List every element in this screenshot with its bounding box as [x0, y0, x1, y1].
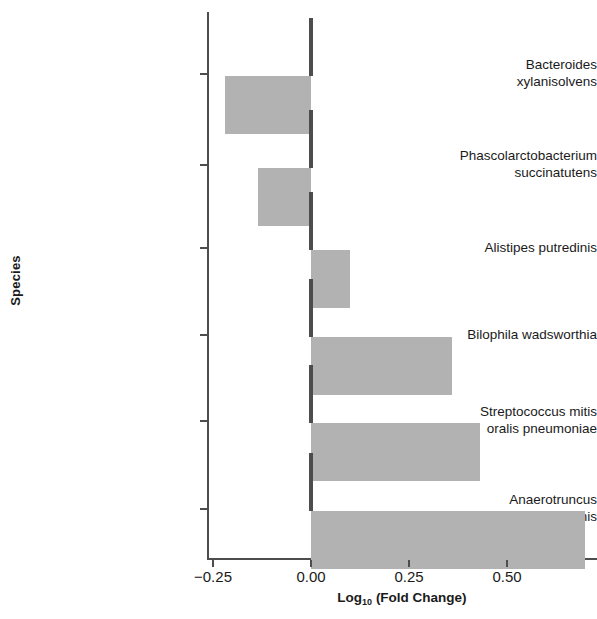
- y-tick-label-bacteroides-xylanisolvens: Bacteroides xylanisolvens: [401, 56, 597, 90]
- y-tick-mark: [200, 73, 207, 75]
- bar-chart: Species Bacteroides xylanisolvens Phasco…: [0, 0, 597, 619]
- y-tick-label-phascolarctobacterium-succinatutens: Phascolarctobacterium succinatutens: [401, 147, 597, 181]
- bar: [311, 250, 350, 308]
- x-tick-label: −0.25: [173, 568, 253, 585]
- bar: [311, 423, 480, 481]
- y-axis-line: [207, 12, 209, 559]
- bar: [225, 76, 311, 134]
- y-axis-title-text: Species: [8, 255, 23, 306]
- bar: [258, 168, 311, 226]
- x-tick-mark: [506, 560, 508, 567]
- zero-reference-stub: [309, 453, 313, 511]
- y-tick-mark: [200, 247, 207, 249]
- bar: [311, 337, 452, 395]
- zero-reference-stub: [309, 192, 313, 250]
- zero-reference-stub: [309, 279, 313, 337]
- y-tick-mark: [200, 420, 207, 422]
- x-tick-label: 0.25: [369, 568, 449, 585]
- x-axis-title: Log10 (Fold Change): [207, 590, 597, 605]
- x-tick-mark: [408, 560, 410, 567]
- x-tick-mark: [310, 560, 312, 567]
- zero-reference-stub: [309, 110, 313, 168]
- y-tick-mark: [200, 164, 207, 166]
- y-tick-label-alistipes-putredinis: Alistipes putredinis: [401, 239, 597, 256]
- zero-reference-stub: [309, 365, 313, 423]
- x-tick-label: 0.00: [271, 568, 351, 585]
- x-axis-title-rest: (Fold Change): [372, 590, 467, 605]
- y-axis-title: Species: [2, 0, 28, 560]
- zero-reference-stub: [309, 18, 313, 76]
- y-tick-mark: [200, 508, 207, 510]
- x-tick-label: 0.50: [467, 568, 547, 585]
- y-tick-mark: [200, 334, 207, 336]
- x-axis-title-main: Log: [337, 590, 362, 605]
- bar: [311, 511, 585, 569]
- x-tick-mark: [212, 560, 214, 567]
- x-axis-title-subscript: 10: [362, 597, 372, 607]
